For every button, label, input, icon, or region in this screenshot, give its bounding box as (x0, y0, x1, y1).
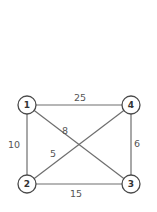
weight-label-4-3: 6 (134, 138, 140, 149)
node-label: 2 (24, 179, 30, 189)
weight-label-1-4: 25 (74, 92, 86, 103)
node-4: 4 (122, 96, 140, 114)
node-3: 3 (122, 175, 140, 193)
node-1: 1 (18, 96, 36, 114)
node-label: 3 (128, 179, 134, 189)
weight-label-1-3: 8 (62, 125, 68, 136)
node-label: 4 (128, 100, 134, 110)
weight-label-1-2: 10 (8, 139, 20, 150)
weight-label-2-3: 15 (70, 188, 82, 199)
weight-label-2-4: 5 (50, 148, 56, 159)
edges (27, 105, 131, 184)
weighted-graph-diagram: 25 10 8 5 6 15 1 2 3 4 (0, 0, 157, 212)
node-label: 1 (24, 100, 30, 110)
node-2: 2 (18, 175, 36, 193)
